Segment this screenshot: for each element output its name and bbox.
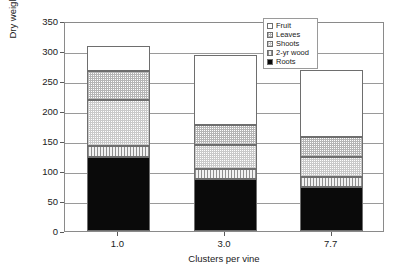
plot-area bbox=[64, 22, 384, 232]
bar-segment-leaves[interactable] bbox=[194, 125, 257, 145]
bar-segment-fruit[interactable] bbox=[194, 55, 257, 125]
stacked-bar-chart: Dry weight (g) 050100150200250300350 1.0… bbox=[0, 0, 406, 273]
y-axis-tick-label: 250 bbox=[12, 77, 58, 87]
legend-item[interactable]: Fruit bbox=[267, 21, 315, 30]
y-axis-tick-label: 0 bbox=[12, 227, 58, 237]
bar-group[interactable] bbox=[87, 21, 150, 231]
y-axis-labels: 050100150200250300350 bbox=[0, 0, 58, 273]
bar-segment-2-yr-wood[interactable] bbox=[87, 146, 150, 157]
legend-item-label: 2-yr wood bbox=[276, 48, 309, 57]
dotted-square-icon bbox=[267, 32, 273, 38]
bar-segment-roots[interactable] bbox=[87, 157, 150, 231]
y-axis-tick-label: 100 bbox=[12, 167, 58, 177]
y-axis-tick-label: 50 bbox=[12, 197, 58, 207]
legend-item[interactable]: 2-yr wood bbox=[267, 48, 315, 57]
legend-item-label: Leaves bbox=[276, 30, 300, 39]
y-axis-tick-label: 150 bbox=[12, 137, 58, 147]
bar-segment-leaves[interactable] bbox=[300, 137, 363, 157]
x-axis-tick bbox=[224, 232, 225, 236]
x-axis-tick bbox=[331, 232, 332, 236]
legend-item[interactable]: Leaves bbox=[267, 30, 315, 39]
x-axis-tick-label: 1.0 bbox=[87, 238, 147, 249]
bar-segment-fruit[interactable] bbox=[300, 70, 363, 137]
bar-group[interactable] bbox=[194, 21, 257, 231]
bar-segment-2-yr-wood[interactable] bbox=[300, 177, 363, 187]
stacked-bar[interactable] bbox=[194, 21, 257, 231]
bar-segment-shoots[interactable] bbox=[87, 100, 150, 146]
white-square-icon bbox=[267, 23, 273, 29]
light-dotted-square-icon bbox=[267, 41, 273, 47]
y-axis-tick-label: 350 bbox=[12, 17, 58, 27]
x-axis-title: Clusters per vine bbox=[64, 253, 384, 264]
legend-item-label: Shoots bbox=[276, 39, 299, 48]
legend-item[interactable]: Roots bbox=[267, 57, 315, 66]
stacked-bar[interactable] bbox=[87, 21, 150, 231]
y-axis-tick-label: 200 bbox=[12, 107, 58, 117]
bar-segment-leaves[interactable] bbox=[87, 71, 150, 100]
bar-segment-fruit[interactable] bbox=[87, 46, 150, 71]
legend-item-label: Fruit bbox=[276, 21, 291, 30]
x-axis-tick bbox=[117, 232, 118, 236]
x-axis-tick-label: 7.7 bbox=[301, 238, 361, 249]
legend-item[interactable]: Shoots bbox=[267, 39, 315, 48]
y-axis-tick bbox=[60, 232, 64, 233]
bar-segment-roots[interactable] bbox=[300, 187, 363, 231]
chart-legend: FruitLeavesShoots2-yr woodRoots bbox=[263, 18, 318, 69]
bar-segment-shoots[interactable] bbox=[300, 157, 363, 177]
bar-segment-shoots[interactable] bbox=[194, 145, 257, 168]
legend-item-label: Roots bbox=[276, 57, 296, 66]
x-axis-tick-label: 3.0 bbox=[194, 238, 254, 249]
bar-segment-2-yr-wood[interactable] bbox=[194, 169, 257, 179]
striped-square-icon bbox=[267, 50, 273, 56]
black-square-icon bbox=[267, 59, 273, 65]
bar-segment-roots[interactable] bbox=[194, 179, 257, 231]
y-axis-tick-label: 300 bbox=[12, 47, 58, 57]
